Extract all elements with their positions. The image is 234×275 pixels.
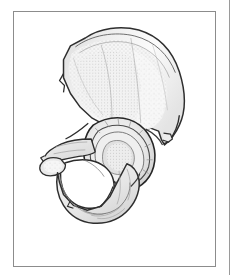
- greater-sciatic-notch: [65, 123, 88, 139]
- anterior-inferior-iliac-spine: [163, 133, 173, 142]
- figure-panel: Lateral view of the right hip bone showi…: [13, 11, 216, 267]
- ischial-spine-stipple: [44, 160, 63, 172]
- hip-bone-illustration: Lateral view of the right hip bone showi…: [14, 12, 215, 266]
- page-background: Lateral view of the right hip bone showi…: [0, 0, 234, 275]
- column-divider: [229, 0, 230, 275]
